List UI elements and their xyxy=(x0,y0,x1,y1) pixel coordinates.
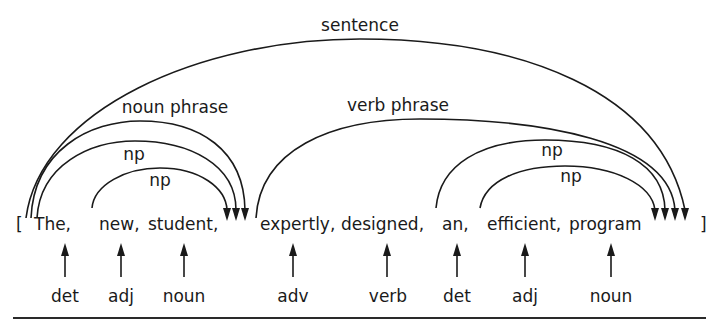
tag-noun-1: noun xyxy=(163,286,206,306)
noun-phrase-label: noun phrase xyxy=(122,97,228,117)
word-program: program xyxy=(569,214,642,234)
bottom-rule-divider xyxy=(13,317,706,319)
sentence-label: sentence xyxy=(321,15,399,35)
tag-noun-2: noun xyxy=(590,286,633,306)
tag-arrows xyxy=(61,243,615,277)
tag-adj-2: adj xyxy=(512,286,538,306)
tag-adj-1: adj xyxy=(108,286,134,306)
word-efficient: efficient, xyxy=(487,214,561,234)
tag-det-1: det xyxy=(51,286,79,306)
word-designed: designed, xyxy=(341,214,424,234)
close-bracket: ] xyxy=(700,214,707,234)
arcs-layer xyxy=(0,0,720,323)
tag-verb: verb xyxy=(369,286,407,306)
open-bracket: [ xyxy=(16,214,23,234)
arrowheads-right xyxy=(651,208,689,221)
word-an: an, xyxy=(442,214,469,234)
arrowheads-left xyxy=(223,208,249,221)
word-the: The, xyxy=(34,214,71,234)
np-left-inner-label: np xyxy=(149,170,171,190)
np-right-inner-label: np xyxy=(560,166,582,186)
tag-adv: adv xyxy=(277,286,308,306)
tag-det-2: det xyxy=(443,286,471,306)
np-right-outer-label: np xyxy=(541,140,563,160)
word-student: student, xyxy=(148,214,218,234)
sentence-arc xyxy=(26,39,685,218)
np-left-outer-label: np xyxy=(123,144,145,164)
word-expertly: expertly, xyxy=(260,214,335,234)
verb-phrase-label: verb phrase xyxy=(347,95,449,115)
verb-phrase-arc xyxy=(256,119,675,218)
parse-tree-diagram: sentence noun phrase np np verb phrase n… xyxy=(0,0,720,323)
word-new: new, xyxy=(99,214,140,234)
